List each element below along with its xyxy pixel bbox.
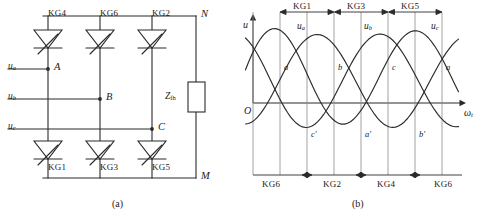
y-axis-label: u — [243, 20, 248, 30]
terminal-label-n: N — [201, 9, 208, 20]
source-label-ub-sub: b — [13, 94, 16, 101]
crossing-label-c-prime: c′ — [311, 130, 317, 139]
thyristor-label-kg2: KG2 — [152, 9, 170, 18]
node-dot-b — [98, 97, 102, 101]
interval-label-kg2: KG2 — [323, 180, 341, 189]
curve-label-ub: ub — [364, 22, 372, 32]
interval-label-kg1: KG1 — [293, 2, 311, 11]
node-dot-a — [46, 67, 50, 71]
node-label-a: A — [54, 62, 60, 73]
curve-label-ua-sub: a — [302, 24, 305, 31]
crossing-label-b: b — [338, 63, 342, 72]
curve-ua — [246, 29, 459, 125]
crossing-label-a2: a — [446, 63, 450, 72]
interval-label-kg4: KG4 — [377, 180, 395, 189]
source-label-uc-sub: c — [13, 124, 16, 131]
node-label-b: B — [106, 92, 112, 103]
crossing-label-c: c — [392, 63, 396, 72]
curve-ub — [246, 35, 459, 128]
x-axis-label-base: ω — [464, 107, 471, 118]
interval-label-kg5: KG5 — [401, 2, 419, 11]
interval-label-kg3: KG3 — [347, 2, 365, 11]
x-axis-label-sub: t — [471, 111, 473, 118]
thyristor-label-kg5: KG5 — [152, 163, 170, 172]
curve-label-ub-sub: b — [369, 24, 372, 31]
caption-b: (b) — [352, 199, 364, 209]
node-label-c: C — [158, 122, 165, 133]
source-label-ua-sub: a — [13, 64, 16, 71]
node-dot-c — [150, 127, 154, 131]
x-axis-arrow — [460, 100, 467, 106]
source-label-uc: uc — [8, 122, 16, 132]
curve-label-uc: uc — [431, 22, 439, 32]
crossing-label-a-prime: a′ — [365, 130, 371, 139]
circuit-panel: KG4 KG6 KG2 KG1 KG3 KG5 ua ub uc A B C N… — [0, 0, 240, 219]
curve-label-ua: ua — [297, 22, 305, 32]
thyristor-label-kg4: KG4 — [48, 9, 66, 18]
figure-root: KG4 KG6 KG2 KG1 KG3 KG5 ua ub uc A B C N… — [0, 0, 495, 219]
source-label-ub: ub — [8, 92, 16, 102]
bottom-interval-arrows — [253, 172, 462, 177]
load-label-sub: fh — [170, 94, 175, 101]
curve-label-uc-sub: c — [436, 24, 439, 31]
terminal-label-m: M — [201, 171, 210, 182]
load-impedance-box — [188, 82, 205, 112]
interval-label-kg6-right: KG6 — [434, 180, 452, 189]
interval-label-kg6-left: KG6 — [262, 180, 280, 189]
source-label-ua: ua — [8, 62, 16, 72]
curve-uc — [246, 34, 459, 127]
x-axis-label: ωt — [464, 108, 473, 119]
waveform-panel: u O ωt ua ub uc a b c a c′ a′ b′ KG1 KG3… — [240, 0, 495, 219]
crossing-label-a: a — [284, 63, 288, 72]
thyristor-label-kg1: KG1 — [48, 163, 66, 172]
commutation-gridlines — [253, 12, 442, 175]
origin-label: O — [244, 106, 251, 116]
crossing-label-b-prime: b′ — [419, 130, 425, 139]
thyristor-label-kg3: KG3 — [100, 163, 118, 172]
thyristor-label-kg6: KG6 — [100, 9, 118, 18]
caption-a: (a) — [112, 199, 123, 209]
load-label: Zfh — [165, 92, 176, 102]
